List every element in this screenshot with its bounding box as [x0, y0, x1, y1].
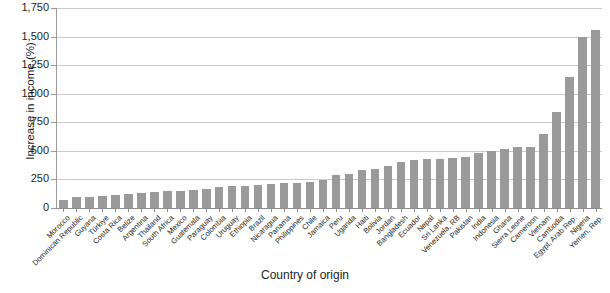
bar: [371, 169, 380, 208]
bar: [436, 159, 445, 208]
bar: [59, 200, 68, 208]
x-axis-tick: [141, 208, 142, 212]
x-axis-tick: [63, 208, 64, 212]
bar: [280, 183, 289, 208]
x-axis-tick: [206, 208, 207, 212]
bar: [410, 160, 419, 208]
bar: [448, 158, 457, 208]
bar: [150, 192, 159, 208]
x-axis-tick: [401, 208, 402, 212]
bar: [189, 190, 198, 208]
x-axis-tick: [531, 208, 532, 212]
y-axis-tick-label: 1,000: [0, 88, 49, 99]
bar: [332, 175, 341, 208]
x-axis-tick: [271, 208, 272, 212]
bar: [98, 196, 107, 208]
bar: [384, 166, 393, 208]
x-axis-tick: [297, 208, 298, 212]
y-axis-tick-label: 250: [0, 173, 49, 184]
bar: [500, 149, 509, 208]
bar: [137, 193, 146, 208]
x-axis-tick: [388, 208, 389, 212]
bar: [228, 186, 237, 208]
bar: [513, 147, 522, 208]
bars-group: [57, 8, 602, 208]
bar: [358, 170, 367, 208]
bar: [306, 182, 315, 208]
x-axis-tick: [219, 208, 220, 212]
x-axis-tick: [193, 208, 194, 212]
bar: [487, 151, 496, 208]
x-axis-tick: [570, 208, 571, 212]
x-axis-tick: [284, 208, 285, 212]
x-axis-tick: [492, 208, 493, 212]
x-axis-tick: [479, 208, 480, 212]
x-axis-tick: [102, 208, 103, 212]
x-axis-tick: [414, 208, 415, 212]
bar: [345, 174, 354, 208]
x-axis-tick: [505, 208, 506, 212]
bar: [461, 157, 470, 208]
x-axis-tick: [427, 208, 428, 212]
bar: [578, 37, 587, 208]
bar: [72, 197, 81, 208]
x-axis-tick: [596, 208, 597, 212]
bar: [397, 162, 406, 208]
x-axis-tick: [583, 208, 584, 212]
x-axis-tick: [180, 208, 181, 212]
x-axis-tick: [557, 208, 558, 212]
bar: [202, 189, 211, 208]
bar: [591, 30, 600, 208]
x-axis-tick: [258, 208, 259, 212]
bar: [254, 185, 263, 208]
x-axis-tick: [323, 208, 324, 212]
x-axis-tick: [349, 208, 350, 212]
plot-area: [57, 8, 602, 208]
x-axis-tick: [154, 208, 155, 212]
x-axis-tick: [89, 208, 90, 212]
bar: [163, 191, 172, 208]
bar: [267, 184, 276, 208]
bar: [539, 134, 548, 208]
bar: [319, 180, 328, 208]
x-axis-title: Country of origin: [0, 268, 610, 282]
bar: [111, 195, 120, 208]
x-axis-tick: [466, 208, 467, 212]
bar-chart: Increase in income (%) 02505007501,0001,…: [0, 0, 610, 293]
x-axis-tick: [453, 208, 454, 212]
bar: [215, 187, 224, 208]
x-axis-tick: [544, 208, 545, 212]
y-axis-tick-label: 750: [0, 116, 49, 127]
x-axis-tick: [167, 208, 168, 212]
x-axis-tick: [115, 208, 116, 212]
bar: [552, 112, 561, 208]
bar: [526, 147, 535, 208]
x-axis-tick: [518, 208, 519, 212]
bar: [124, 194, 133, 208]
x-axis-tick: [128, 208, 129, 212]
y-axis-tick-label: 1,750: [0, 2, 49, 13]
x-axis-tick: [76, 208, 77, 212]
x-axis-tick: [245, 208, 246, 212]
bar: [176, 191, 185, 208]
x-axis-tick: [362, 208, 363, 212]
bar: [85, 197, 94, 208]
x-axis-tick: [232, 208, 233, 212]
x-axis-tick: [375, 208, 376, 212]
bar: [241, 186, 250, 208]
bar: [293, 183, 302, 208]
y-axis-tick-label: 500: [0, 145, 49, 156]
y-axis-tick-label: 0: [0, 202, 49, 213]
x-axis-tick: [440, 208, 441, 212]
bar: [423, 159, 432, 208]
x-axis-tick: [336, 208, 337, 212]
gridline: [57, 208, 602, 209]
y-axis-tick-label: 1,250: [0, 59, 49, 70]
bar: [565, 77, 574, 208]
y-axis-tick-label: 1,500: [0, 31, 49, 42]
bar: [474, 153, 483, 208]
x-axis-tick: [310, 208, 311, 212]
